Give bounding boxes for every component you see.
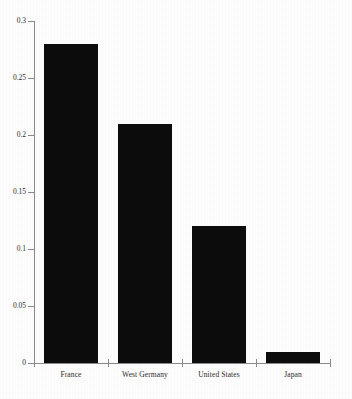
x-axis-category-label: West Germany — [108, 370, 182, 379]
bars-layer — [0, 0, 352, 363]
x-axis-category-label: United States — [182, 370, 256, 379]
bar — [118, 124, 172, 363]
x-axis-category-label: Japan — [256, 370, 330, 379]
bar-chart: 00.050.10.150.20.250.3 FranceWest German… — [0, 0, 352, 399]
bar — [266, 352, 320, 363]
bar — [44, 44, 98, 363]
x-axis-category-label: France — [34, 370, 108, 379]
bar — [192, 226, 246, 363]
